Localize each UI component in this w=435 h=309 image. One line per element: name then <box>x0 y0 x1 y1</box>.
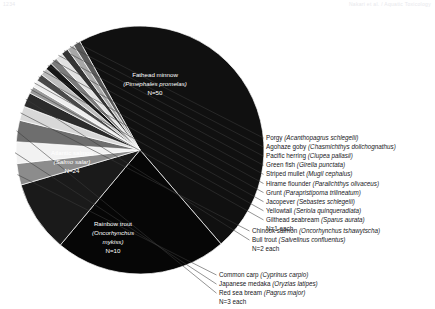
callout-entry: Gilthead seabream (Sparus aurata) <box>266 216 365 224</box>
label-fathead-minnow-scientific: (Pimephales promelas) <box>123 80 187 87</box>
callout-entry: Jacopever (Sebastes schlegelii) <box>266 198 355 206</box>
callout-entry: Striped mullet (Mugil cephalus) <box>266 170 352 178</box>
label-rainbow-trout-n: N=10 <box>106 247 122 254</box>
pie-chart-svg: Fathead minnow(Pimephales promelas)N=50A… <box>0 0 435 309</box>
callout-entry: Yellowtail (Seriola quinqueradiata) <box>266 207 361 215</box>
label-rainbow-trout-scientific-2: mykiss) <box>103 238 124 245</box>
callout-entry: Agohaze goby (Chasmichthys dolichognathu… <box>266 143 396 151</box>
callout-entry: Chinook salmon (Oncorhynchus tshawytscha… <box>252 227 380 235</box>
label-fathead-minnow-n: N=50 <box>148 89 164 96</box>
callout-entry: Pacific herring (Clupea pallasii) <box>266 152 353 160</box>
callout-entry: Common carp (Cyprinus carpio) <box>219 271 308 279</box>
callout-entry: Bull trout (Salvelinus confluentus) <box>252 236 345 244</box>
callout-entry: Grunt (Parapristipoma trilineatum) <box>266 189 361 197</box>
label-rainbow-trout-common: Rainbow trout <box>94 220 132 227</box>
label-rainbow-trout-scientific-1: (Oncorhynchus <box>92 229 134 236</box>
callout-entry: Hirame flounder (Paralichthys olivaceus) <box>266 180 379 188</box>
callout-entry: Japanese medaka (Oryzias latipes) <box>219 280 318 288</box>
label-atlantic-salmon-scientific: (Salmo salar) <box>54 158 91 165</box>
callout-entry: Porgy (Acanthopagrus schlegelii) <box>266 134 358 142</box>
pie-chart-figure: Fathead minnow(Pimephales promelas)N=50A… <box>0 0 435 309</box>
callout-footer: N=2 each <box>252 245 280 252</box>
label-fathead-minnow-common: Fathead minnow <box>132 71 178 78</box>
callout-entry: Green fish (Girella punctata) <box>266 161 345 169</box>
label-atlantic-salmon-common: Atlantic salmon <box>51 149 94 156</box>
callout-footer: N=3 each <box>219 298 247 305</box>
callout-entry: Red sea bream (Pagrus major) <box>219 289 305 297</box>
label-atlantic-salmon-n: N=24 <box>65 167 81 174</box>
